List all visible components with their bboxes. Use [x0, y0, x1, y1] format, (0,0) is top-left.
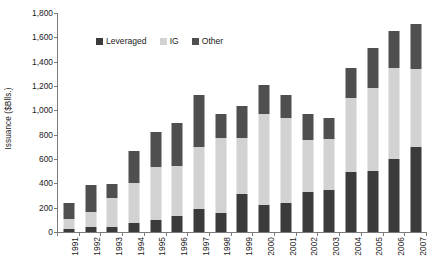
bar-stack[interactable] [302, 114, 313, 232]
bar-stack[interactable] [411, 24, 422, 232]
x-axis-tick-label: 1998 [223, 237, 231, 267]
bar-stack[interactable] [367, 48, 378, 232]
y-axis-tick-label: 1,400 [12, 57, 53, 65]
x-axis-tick-mark [361, 232, 362, 236]
bar-segment-leveraged [259, 205, 270, 232]
bar-segment-other [389, 31, 400, 68]
x-axis-tick-mark [122, 232, 123, 236]
bar-segment-ig [63, 219, 74, 229]
bar-stack[interactable] [172, 123, 183, 232]
x-axis-tick-label: 1993 [115, 237, 123, 267]
bar-segment-leveraged [128, 223, 139, 232]
bar-slot [318, 13, 340, 232]
bar-segment-other [172, 123, 183, 167]
y-axis-tick-mark [54, 159, 58, 160]
x-axis-tick-mark [166, 232, 167, 236]
bar-segment-leveraged [324, 190, 335, 232]
x-axis-tick-mark [317, 232, 318, 236]
bar-segment-other [150, 132, 161, 167]
legend-label: Other [202, 37, 224, 46]
y-axis-title-label: Issuance ($Blls.) [4, 87, 13, 149]
x-axis-tick-mark [339, 232, 340, 236]
bar-segment-leveraged [215, 213, 226, 232]
x-axis-tick-label: 2006 [397, 237, 405, 267]
y-axis-tick-mark [54, 110, 58, 111]
stacked-bar-chart: Issuance ($Blls.) 02004006008001,0001,20… [0, 0, 432, 270]
x-axis-tick-mark [426, 232, 427, 236]
bar-segment-leveraged [389, 159, 400, 232]
bar-stack[interactable] [280, 95, 291, 232]
legend-swatch-icon [192, 38, 199, 45]
x-axis-tick-mark [209, 232, 210, 236]
legend-item[interactable]: Leveraged [96, 37, 147, 46]
bar-segment-ig [128, 183, 139, 223]
bar-stack[interactable] [237, 106, 248, 232]
bar-segment-ig [346, 98, 357, 173]
y-axis-tick-mark [54, 208, 58, 209]
y-axis-tick-mark [54, 13, 58, 14]
bar-segment-leveraged [367, 171, 378, 232]
y-axis-tick-label: 600 [12, 155, 53, 163]
bar-slot [275, 13, 297, 232]
bar-stack[interactable] [194, 95, 205, 232]
bar-segment-other [85, 185, 96, 212]
bar-stack[interactable] [150, 132, 161, 232]
bar-stack[interactable] [63, 203, 74, 232]
bar-segment-other [63, 203, 74, 218]
bar-stack[interactable] [389, 31, 400, 232]
y-axis-tick-mark [54, 37, 58, 38]
bar-stack[interactable] [107, 184, 118, 232]
bar-segment-leveraged [150, 220, 161, 232]
x-axis-tick-mark [79, 232, 80, 236]
x-axis-tick-label: 1996 [180, 237, 188, 267]
x-axis-tick-mark [231, 232, 232, 236]
bar-stack[interactable] [128, 151, 139, 233]
y-axis-title: Issuance ($Blls.) [0, 0, 16, 236]
x-axis-tick-mark [296, 232, 297, 236]
bar-segment-ig [215, 138, 226, 213]
legend-swatch-icon [160, 38, 167, 45]
bar-stack[interactable] [259, 85, 270, 232]
x-axis-tick-label: 1999 [245, 237, 253, 267]
bar-segment-leveraged [280, 203, 291, 232]
bar-stack[interactable] [324, 118, 335, 232]
bar-segment-leveraged [411, 147, 422, 232]
x-axis-tick-mark [383, 232, 384, 236]
bar-slot [232, 13, 254, 232]
bar-segment-leveraged [194, 209, 205, 232]
x-axis-tick-label: 1991 [71, 237, 79, 267]
bar-segment-other [237, 106, 248, 138]
x-axis-tick-label: 2000 [267, 237, 275, 267]
x-axis-tick-label: 2003 [332, 237, 340, 267]
y-axis-tick-label: 200 [12, 203, 53, 211]
y-axis-tick-label: 0 [12, 228, 53, 236]
bar-stack[interactable] [346, 68, 357, 232]
bar-segment-other [346, 68, 357, 98]
x-axis-tick-label: 1995 [158, 237, 166, 267]
chart-legend: LeveragedIGOther [96, 37, 223, 46]
bar-slot [340, 13, 362, 232]
x-axis-tick-label: 2005 [375, 237, 383, 267]
bar-segment-ig [389, 68, 400, 159]
bar-stack[interactable] [215, 114, 226, 232]
x-axis-tick-label: 2007 [419, 237, 427, 267]
x-axis-tick-label: 2001 [289, 237, 297, 267]
x-axis-tick-label: 1997 [202, 237, 210, 267]
bar-segment-other [194, 95, 205, 147]
plot-area [57, 13, 427, 233]
bar-segment-ig [259, 114, 270, 205]
legend-item[interactable]: Other [192, 37, 224, 46]
bar-segment-other [107, 184, 118, 198]
bar-segment-other [367, 48, 378, 88]
bar-stack[interactable] [85, 185, 96, 232]
bar-segment-ig [411, 69, 422, 147]
x-axis-tick-mark [57, 232, 58, 236]
x-axis-tick-mark [274, 232, 275, 236]
legend-label: Leveraged [106, 37, 147, 46]
y-axis-tick-label: 1,000 [12, 106, 53, 114]
x-axis-tick-mark [252, 232, 253, 236]
legend-item[interactable]: IG [160, 37, 179, 46]
legend-swatch-icon [96, 38, 103, 45]
bar-segment-other [259, 85, 270, 114]
y-axis-tick-mark [54, 183, 58, 184]
